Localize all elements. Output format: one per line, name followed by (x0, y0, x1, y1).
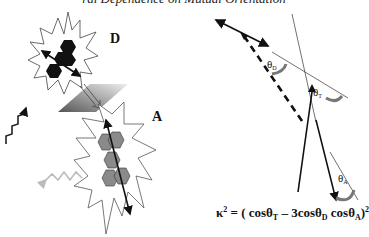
theta-t-label: θT (313, 86, 322, 99)
excitation-wave-icon (6, 108, 26, 144)
emission-wave-icon (46, 172, 82, 180)
theta-a-label: θA (338, 172, 348, 185)
theta-d-label: θD (267, 58, 277, 71)
kappa-squared-formula: κ2 = ( cosθT – 3cosθD cosθA)2 (216, 205, 369, 222)
acceptor-label: A (152, 109, 162, 125)
donor-label: D (110, 31, 120, 47)
orientation-geometry (216, 14, 358, 200)
transfer-plane (58, 84, 128, 112)
